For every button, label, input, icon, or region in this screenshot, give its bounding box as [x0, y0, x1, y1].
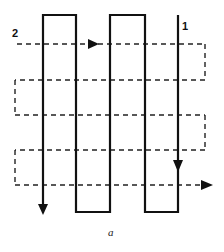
path-2-label: 2 [12, 27, 18, 39]
arrow-right-icon [201, 180, 213, 190]
arrow-right-icon [88, 39, 99, 49]
arrow-down-icon [38, 204, 48, 215]
scan-path-diagram: 2 1 a [0, 0, 224, 252]
figure-caption: a [108, 226, 114, 238]
path-1-label: 1 [182, 20, 188, 32]
arrow-down-icon [173, 160, 183, 172]
